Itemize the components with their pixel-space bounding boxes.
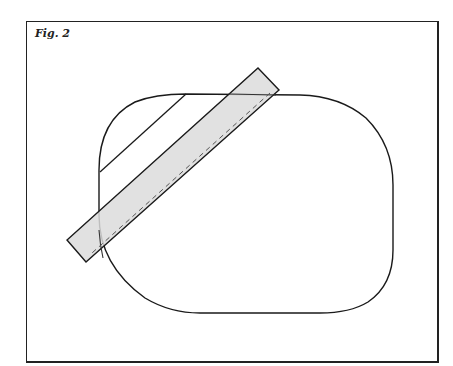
dashed-fold-line [92,93,270,253]
diagram-canvas [0,0,453,366]
